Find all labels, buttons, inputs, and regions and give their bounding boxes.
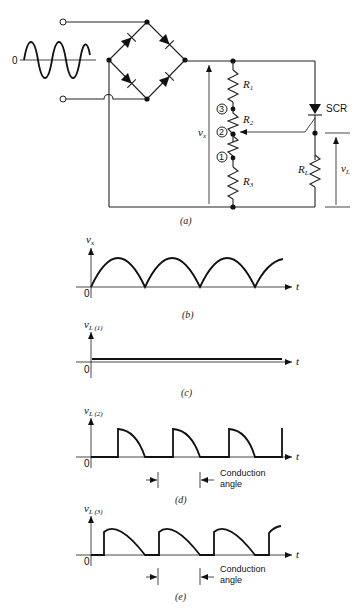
scr-thyristor-icon — [308, 104, 322, 115]
plot-c-ylabel: vL (1) — [84, 318, 103, 332]
plot-d-origin: 0 — [84, 458, 90, 469]
plot-e-conduction-label: Conduction — [220, 564, 266, 574]
tap-1-label: 1 — [219, 152, 224, 162]
scr-label: SCR — [326, 103, 347, 114]
scr-branch: SCR RL — [297, 61, 347, 207]
plot-e-origin: 0 — [84, 556, 90, 567]
caption-e: (e) — [175, 591, 187, 603]
input-terminal-bottom — [60, 96, 66, 102]
source-zero-label: 0 — [12, 55, 18, 66]
caption-a: (a) — [180, 215, 192, 227]
plot-d-ylabel: vL (2) — [84, 404, 103, 418]
plot-b-ylabel: vx — [86, 233, 95, 247]
plot-b-xlabel: t — [296, 280, 300, 292]
tap-3-label: 3 — [219, 104, 224, 114]
caption-c: (c) — [181, 387, 193, 399]
caption-b: (b) — [182, 309, 194, 321]
circuit-diagram: 0 — [12, 19, 350, 227]
r1-label: R1 — [242, 78, 253, 92]
tap-2-label: 2 — [219, 127, 224, 137]
plot-e-vl3: vL (3) 0 t Conduction angle (e) — [76, 502, 300, 603]
r2-label: R2 — [242, 113, 254, 127]
caption-d: (d) — [175, 494, 187, 506]
plot-b-origin: 0 — [84, 288, 90, 299]
plot-e-ylabel: vL (3) — [84, 502, 103, 516]
voltage-divider: R1 3 R2 2 1 R3 — [217, 58, 254, 209]
plot-e-xlabel: t — [296, 548, 300, 560]
resistor-r1-icon — [228, 70, 238, 102]
bridge-rectifier — [106, 19, 187, 101]
rl-label: RL — [297, 163, 309, 177]
plot-b-vx: vx 0 t (b) — [76, 233, 300, 321]
plot-d-vl2: vL (2) 0 t Conduction angle (d) — [76, 404, 300, 506]
plot-d-angle-label: angle — [220, 479, 242, 489]
resistor-r2-potentiometer-icon — [228, 109, 238, 142]
plot-c-origin: 0 — [84, 364, 90, 375]
ac-source-sine-icon: 0 — [12, 42, 96, 78]
plot-c-xlabel: t — [296, 355, 300, 367]
plot-d-xlabel: t — [296, 450, 300, 462]
input-terminal-top — [60, 19, 66, 25]
r3-label: R3 — [242, 175, 254, 189]
vl-label: vL — [341, 162, 350, 176]
scr-gate-lead — [305, 118, 315, 132]
scr-phase-control-figure: 0 — [0, 0, 361, 611]
vx-label: vx — [198, 126, 207, 140]
plot-e-angle-label: angle — [220, 575, 242, 585]
resistor-r3-icon — [228, 167, 238, 199]
plot-d-conduction-label: Conduction — [220, 468, 266, 478]
plot-c-vl1: vL (1) 0 t (c) — [76, 318, 300, 399]
